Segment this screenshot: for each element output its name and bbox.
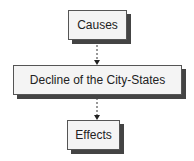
causes-box: Causes [68,10,127,40]
arrow-causes-to-decline [94,41,100,65]
decline-box: Decline of the City-States [13,65,182,95]
effects-box: Effects [67,120,120,150]
arrow-decline-to-effects [94,98,100,120]
